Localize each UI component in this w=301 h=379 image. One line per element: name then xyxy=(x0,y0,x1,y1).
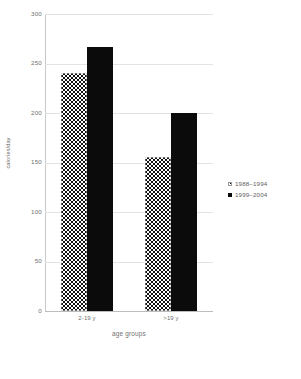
bar-chart-figure: calories/day 050100150200250300 2-19 y>1… xyxy=(0,0,301,379)
y-axis-tick-labels: 050100150200250300 xyxy=(4,14,42,311)
y-axis-tick-label: 200 xyxy=(10,110,42,116)
y-axis-tick-label: 250 xyxy=(10,60,42,66)
bar-checker-1 xyxy=(145,157,171,311)
checker-swatch-icon xyxy=(228,182,232,186)
y-axis-tick-label: 0 xyxy=(10,308,42,314)
y-axis-tick-label: 300 xyxy=(10,11,42,17)
y-axis-tick-label: 50 xyxy=(10,258,42,264)
y-axis-tick-label: 100 xyxy=(10,209,42,215)
gridline xyxy=(45,64,213,65)
plot-area xyxy=(45,14,213,311)
bar-solid-0 xyxy=(87,47,113,311)
bar-solid-1 xyxy=(171,113,197,311)
legend-item[interactable]: 1999–2004 xyxy=(228,189,298,200)
x-axis-category-label: 2-19 y xyxy=(57,315,117,322)
legend-item[interactable]: 1988–1994 xyxy=(228,178,298,189)
gridline xyxy=(45,311,213,312)
chart-legend: 1988–19941999–2004 xyxy=(228,178,298,200)
bar-checker-0 xyxy=(61,73,87,311)
legend-label: 1999–2004 xyxy=(235,191,267,198)
x-axis-category-label: >19 y xyxy=(141,315,201,322)
legend-label: 1988–1994 xyxy=(235,180,267,187)
y-axis-tick-label: 150 xyxy=(10,159,42,165)
gridline xyxy=(45,14,213,15)
x-axis-category-labels: 2-19 y>19 y xyxy=(45,315,213,327)
x-axis-title: age groups xyxy=(45,330,213,338)
solid-swatch-icon xyxy=(228,193,232,197)
